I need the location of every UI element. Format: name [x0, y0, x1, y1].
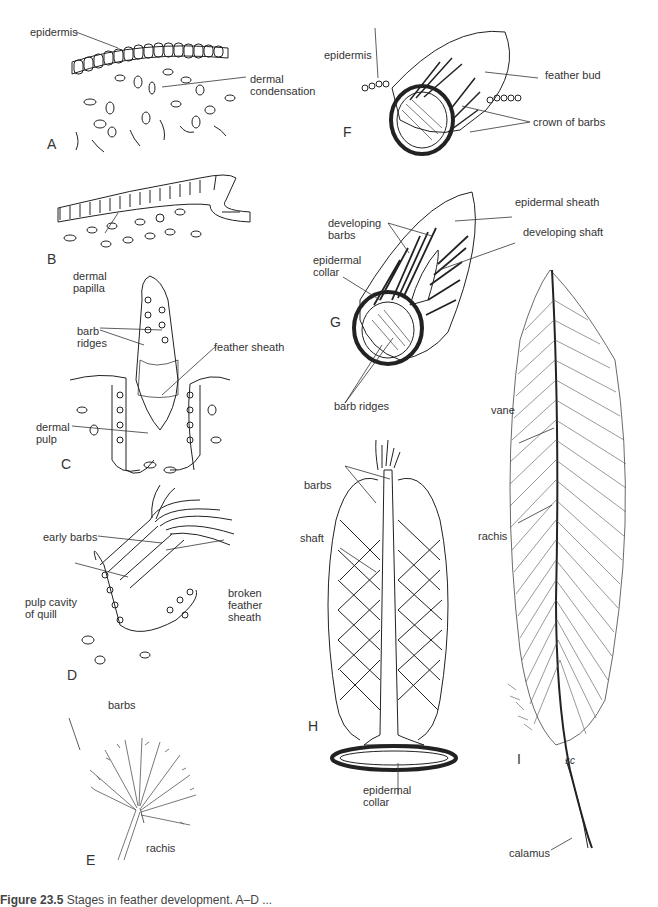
panel-label-f: F — [343, 124, 352, 140]
label-crown-of-barbs: crown of barbs — [533, 116, 605, 128]
panel-h-drawing — [328, 440, 456, 770]
panel-c-drawing — [70, 276, 230, 473]
panel-label-g: G — [330, 314, 341, 330]
artist-signature: sc — [565, 755, 575, 767]
panel-label-d: D — [67, 667, 77, 683]
label-shaft-h: shaft — [300, 532, 324, 544]
panel-label-h: H — [308, 718, 318, 734]
label-pulp-cavity-of-quill: pulp cavity of quill — [25, 596, 77, 620]
label-barb-ridges-c: barb ridges — [77, 325, 107, 349]
label-developing-shaft: developing shaft — [523, 226, 603, 238]
leader-lines — [69, 28, 572, 850]
panel-label-b: B — [47, 251, 56, 267]
label-developing-barbs: developing barbs — [328, 217, 381, 241]
label-barbs-h: barbs — [304, 479, 332, 491]
label-rachis-e: rachis — [146, 842, 175, 854]
label-barbs-e: barbs — [108, 699, 136, 711]
label-feather-bud: feather bud — [545, 69, 601, 81]
caption-number: Figure 23.5 — [0, 893, 63, 907]
panel-label-i: I — [517, 751, 521, 767]
label-dermal-pulp: dermal pulp — [36, 421, 70, 445]
panel-label-a: A — [47, 136, 56, 152]
label-epidermis-f: epidermis — [324, 49, 372, 61]
label-feather-sheath: feather sheath — [214, 341, 284, 353]
label-barb-ridges-g: barb ridges — [334, 400, 389, 412]
panel-e-drawing — [90, 738, 196, 860]
label-dermal-papilla: dermal papilla — [73, 270, 107, 294]
label-epidermal-collar-g: epidermal collar — [313, 254, 361, 278]
label-dermal-condensation: dermal condensation — [250, 73, 315, 97]
label-epidermal-collar-h: epidermal collar — [363, 784, 411, 808]
panel-f-drawing — [362, 31, 521, 154]
label-epidermal-sheath: epidermal sheath — [515, 196, 599, 208]
label-broken-feather-sheath: broken feather sheath — [228, 587, 262, 623]
label-vane: vane — [491, 404, 515, 416]
label-rachis-i: rachis — [478, 530, 507, 542]
panel-b-drawing — [58, 175, 250, 247]
label-calamus: calamus — [509, 847, 550, 859]
panel-d-drawing — [82, 485, 234, 664]
caption-text: Stages in feather development. A–D ... — [67, 893, 272, 907]
label-epidermis-a: epidermis — [30, 26, 78, 38]
panel-label-e: E — [86, 852, 95, 868]
label-early-barbs: early barbs — [43, 531, 97, 543]
figure-caption: Figure 23.5 Stages in feather developmen… — [0, 893, 272, 907]
panel-a-drawing — [72, 43, 235, 152]
panel-label-c: C — [61, 456, 71, 472]
